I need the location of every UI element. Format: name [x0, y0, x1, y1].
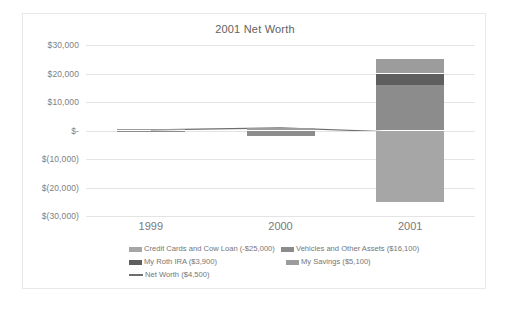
bar-segment[interactable]: [117, 129, 185, 131]
legend-row: Net Worth ($4,500): [86, 270, 486, 283]
bar-segment[interactable]: [376, 74, 444, 85]
legend-label: Credit Cards and Cow Loan (-$25,000): [144, 244, 275, 254]
chart-frame: 2001 Net Worth $30,000$20,000$10,000$-$(…: [22, 13, 486, 289]
chart-title: 2001 Net Worth: [23, 23, 487, 35]
y-axis-tick-label: $(30,000): [42, 211, 79, 221]
legend-swatch-icon: [281, 247, 294, 252]
legend-item[interactable]: Vehicles and Other Assets ($16,100): [281, 244, 419, 254]
legend-label: My Savings ($5,100): [301, 257, 371, 267]
legend-row: My Roth IRA ($3,900)My Savings ($5,100): [86, 257, 486, 270]
legend-item[interactable]: Net Worth ($4,500): [129, 270, 209, 280]
y-axis: $30,000$20,000$10,000$-$(10,000)$(20,000…: [23, 45, 83, 216]
legend-swatch-icon: [129, 247, 142, 252]
bar-segment[interactable]: [247, 128, 315, 131]
legend-row: Credit Cards and Cow Loan (-$25,000)Vehi…: [86, 244, 486, 257]
legend-swatch-icon: [129, 260, 142, 265]
y-axis-tick-label: $(10,000): [42, 154, 79, 164]
y-axis-tick-label: $30,000: [48, 40, 79, 50]
legend-line-icon: [129, 274, 143, 276]
bar-group[interactable]: [376, 45, 444, 216]
y-axis-tick-label: $(20,000): [42, 183, 79, 193]
bar-segment[interactable]: [376, 59, 444, 74]
bar-segment[interactable]: [117, 131, 185, 132]
legend-item[interactable]: Credit Cards and Cow Loan (-$25,000): [129, 244, 275, 254]
x-axis-tick-label: 2001: [398, 220, 422, 232]
y-axis-tick-label: $20,000: [48, 69, 79, 79]
y-axis-tick-label: $10,000: [48, 97, 79, 107]
chart-legend: Credit Cards and Cow Loan (-$25,000)Vehi…: [86, 244, 486, 283]
bar-segment[interactable]: [376, 131, 444, 202]
gridline: [86, 216, 475, 217]
legend-swatch-icon: [286, 260, 299, 265]
plot-area: [86, 45, 475, 216]
bar-group[interactable]: [117, 45, 185, 216]
x-axis-tick-label: 2000: [268, 220, 292, 232]
bar-segment[interactable]: [376, 85, 444, 131]
legend-label: My Roth IRA ($3,900): [144, 257, 217, 267]
bar-group[interactable]: [247, 45, 315, 216]
legend-item[interactable]: My Roth IRA ($3,900): [129, 257, 217, 267]
bar-segment[interactable]: [247, 131, 315, 136]
x-axis: 199920002001: [86, 220, 475, 240]
legend-label: Vehicles and Other Assets ($16,100): [296, 244, 419, 254]
legend-item[interactable]: My Savings ($5,100): [286, 257, 371, 267]
legend-label: Net Worth ($4,500): [145, 270, 209, 280]
x-axis-tick-label: 1999: [139, 220, 163, 232]
y-axis-tick-label: $-: [71, 126, 79, 136]
